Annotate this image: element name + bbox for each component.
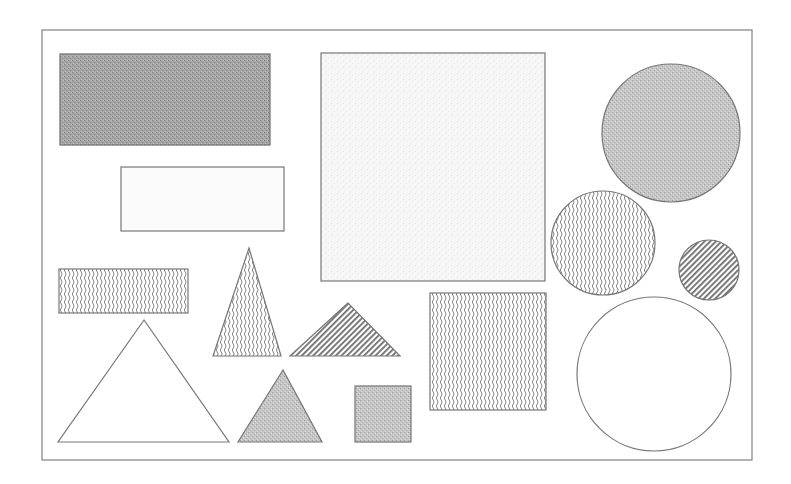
rect-wavy [59, 269, 188, 313]
square-wavy [430, 293, 546, 410]
rect-dark-gray [60, 54, 270, 145]
circle-striped [679, 240, 739, 300]
rect-blank [121, 167, 284, 231]
square-large-light [321, 53, 545, 281]
square-small-gray [355, 386, 411, 442]
circle-blank [577, 297, 731, 451]
shapes-figure [0, 0, 791, 484]
circle-gray [602, 64, 740, 202]
circle-wavy [551, 191, 655, 295]
